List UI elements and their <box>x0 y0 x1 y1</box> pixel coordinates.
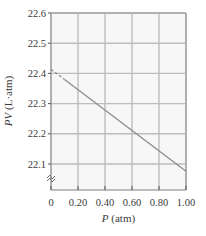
y-axis-label: PV (L·atm) <box>2 75 15 127</box>
y-axis-ticks: 22.122.222.322.422.522.6 <box>28 8 51 170</box>
x-tick-label: 0 <box>48 197 53 208</box>
y-tick-label: 22.4 <box>28 68 47 79</box>
x-tick-label: 1.00 <box>177 197 195 208</box>
x-tick-label: 0.60 <box>123 197 141 208</box>
y-tick-label: 22.6 <box>28 8 46 19</box>
x-axis-label: P (atm) <box>101 212 136 225</box>
pv-vs-p-chart: 22.122.222.322.422.522.6 00.200.400.600.… <box>0 0 206 236</box>
x-tick-label: 0.40 <box>96 197 114 208</box>
y-tick-label: 22.5 <box>28 38 46 49</box>
x-tick-label: 0.20 <box>69 197 87 208</box>
x-tick-label: 0.80 <box>150 197 168 208</box>
y-tick-label: 22.2 <box>28 128 46 139</box>
y-tick-label: 22.3 <box>28 98 46 109</box>
y-tick-label: 22.1 <box>28 159 46 170</box>
